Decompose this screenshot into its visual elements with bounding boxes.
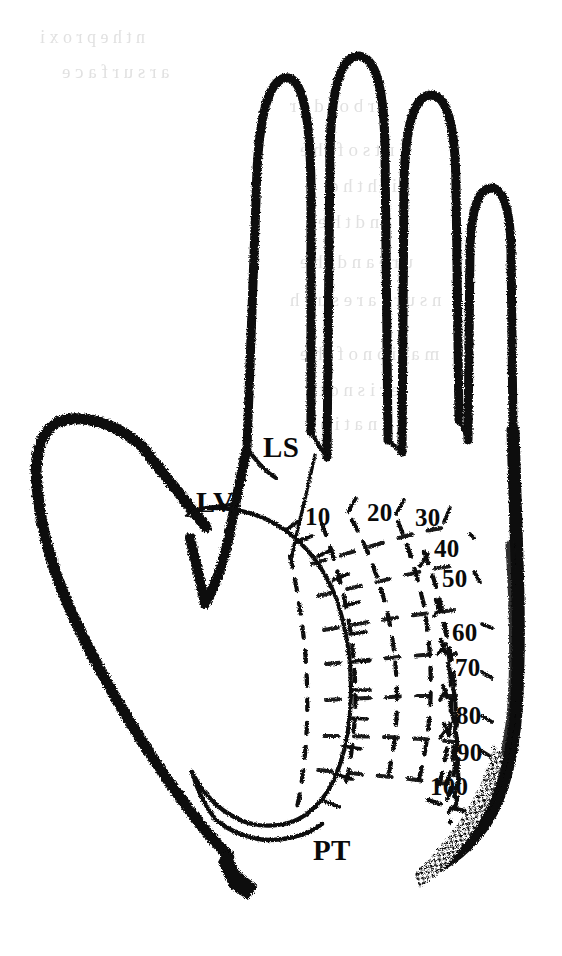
region-label-ls: LS — [263, 433, 299, 462]
finger-outlines — [247, 56, 513, 457]
contour-transverse-dashes — [312, 528, 456, 784]
contour-label-40: 40 — [434, 536, 460, 561]
contour-label-30: 30 — [415, 505, 441, 530]
contour-label-100: 100 — [430, 774, 468, 799]
hand-line-art — [0, 0, 562, 956]
contour-label-90: 90 — [457, 740, 483, 765]
region-label-pt: PT — [313, 836, 351, 865]
region-label-lv: LV — [196, 488, 234, 517]
contour-label-70: 70 — [455, 655, 481, 680]
contour-label-60: 60 — [452, 620, 478, 645]
contour-label-80: 80 — [456, 703, 482, 728]
thenar-eminence-outline — [192, 508, 351, 826]
contour-label-10: 10 — [305, 504, 331, 529]
hand-contour-figure: n t h e p r o x ia r s u r f a c ee r b … — [0, 0, 562, 956]
contour-label-50: 50 — [442, 566, 468, 591]
thumb-outline — [36, 419, 246, 856]
thumb-tip-mass — [218, 848, 258, 900]
contour-label-20: 20 — [367, 500, 393, 525]
